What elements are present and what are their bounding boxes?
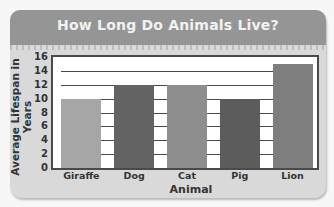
y-tick-label: 12 [34,80,48,90]
x-tick-label: Cat [162,170,212,181]
chart-title: How Long Do Animals Live? [10,17,326,33]
y-axis-title: Average Lifespan in Years [10,52,33,182]
y-tick-label: 2 [34,149,48,159]
y-tick-label: 16 [34,52,48,62]
x-tick-label: Dog [109,170,159,181]
chart-card: How Long Do Animals Live? Average Lifesp… [10,10,326,198]
x-tick-label: Giraffe [56,170,106,181]
plot-area [51,55,319,170]
y-tick-label: 6 [34,121,48,131]
bar-pig [220,99,260,168]
y-tick-label: 14 [34,66,48,76]
y-tick-label: 10 [34,94,48,104]
bar-lion [273,64,313,168]
bar-giraffe [61,99,101,168]
y-tick-label: 4 [34,135,48,145]
x-axis-title: Animal [10,183,326,196]
x-tick-label: Pig [215,170,265,181]
y-tick-label: 0 [34,163,48,173]
bar-dog [114,85,154,168]
bar-cat [167,85,207,168]
x-tick-label: Lion [268,170,318,181]
decorative-dotted-border [10,45,326,50]
y-tick-label: 8 [34,108,48,118]
